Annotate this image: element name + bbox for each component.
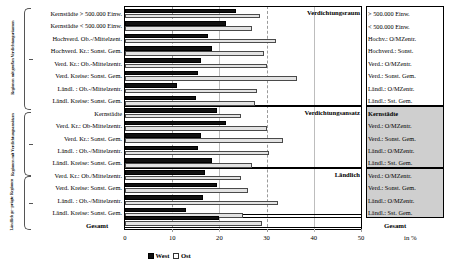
right-category-labels: > 500.000 Einw.< 500.000 Einw.Hochv.: O/… [366, 6, 446, 232]
right-label-1: < 500.000 Einw. [368, 20, 442, 32]
bar-west-2 [125, 34, 208, 39]
legend-label-ost: Ost [181, 252, 191, 259]
right-label-0: > 500.000 Einw. [368, 8, 442, 20]
left-label-16: Ländl. Kreise: Sonst. Gem. [32, 207, 124, 219]
bar-west-11 [125, 146, 198, 151]
axis-tick-0: 0 [117, 234, 133, 241]
bar-west-1 [125, 21, 226, 26]
total-label-right: Gesamt [384, 222, 406, 229]
left-label-12: Ländl. Kreise: Sonst. Gem. [32, 157, 124, 169]
right-label-14: Verd.: Sonst. Gem. [368, 182, 442, 194]
left-label-5: Verd. Kreise: Sonst. Gem. [32, 70, 124, 82]
left-label-4: Verd. Kr.: Ob.-Mittelzentr. [32, 58, 124, 70]
right-label-8: Kernstädte [368, 108, 442, 120]
bar-west-3 [125, 46, 212, 51]
right-label-5: Verd.: Sonst. Gem. [368, 70, 442, 82]
bar-ost-5 [125, 76, 297, 81]
left-label-9: Verd. Kr.: Ob-Mittelzentr. [32, 120, 124, 132]
left-label-7: Ländl. Kreise: Sonst. Gem. [32, 95, 124, 107]
right-label-11: Ländl.: O/MZentr. [368, 145, 442, 157]
axis-tick-50: 50 [353, 234, 369, 241]
left-label-2: Hochverd. Ob.-/Mittelzent. [32, 33, 124, 45]
right-label-9: Verd.: O/MZentr. [368, 120, 442, 132]
legend-swatch-west-icon [148, 253, 154, 259]
right-label-13: Verd.: O/MZentr. [368, 170, 442, 182]
plot-caption-2: Ländlich [335, 171, 360, 178]
axis-tick-30: 30 [259, 234, 275, 241]
bar-ost-total [125, 221, 262, 226]
left-label-0: Kernstädte > 500.000 Einw. [32, 8, 124, 20]
bar-west-15 [125, 195, 203, 200]
left-label-14: Verd. Kreise: Sonst. Gem. [32, 182, 124, 194]
bar-ost-2 [125, 39, 276, 44]
left-label-1: Kernstädte < 500.000 Einw. [32, 20, 124, 32]
legend-item-west: West [148, 252, 169, 259]
left-label-11: Ländl. : Ob.-/Mittelzentr. [32, 145, 124, 157]
bar-ost-14 [125, 188, 248, 193]
left-label-10: Verd. Kr.: Sonst. Gem. [32, 133, 124, 145]
bracket-2 [24, 112, 31, 176]
axis-tick-40: 40 [306, 234, 322, 241]
bar-west-6 [125, 83, 177, 88]
bar-chart: Regionen mit großen Verdichtungsräumen R… [0, 0, 452, 274]
right-label-4: Verd.: O/MZentr. [368, 58, 442, 70]
bracket-label-laendlich: Ländlich ge- prägte Regionen [0, 178, 24, 232]
bracket-label-verdichtungsansaetze: Regionen mit Verdichtungsansätzen [0, 112, 24, 178]
bar-west-12 [125, 158, 212, 163]
bar-west-total [125, 216, 219, 221]
bar-ost-8 [125, 114, 241, 119]
bar-ost-11 [125, 151, 269, 156]
bar-ost-13 [125, 176, 241, 181]
right-label-15: Ländl.: O/MZentr. [368, 195, 442, 207]
axis-tick-10: 10 [164, 234, 180, 241]
legend-label-west: West [156, 252, 170, 259]
bar-ost-12 [125, 163, 252, 168]
bar-west-7 [125, 96, 196, 101]
bar-ost-7 [125, 101, 255, 106]
bar-ost-1 [125, 26, 252, 31]
left-label-13: Verd. Kr.: Ob./Mittelzentr. [32, 170, 124, 182]
bar-ost-3 [125, 51, 264, 56]
plot-caption-0: Verdichtungsraum [307, 9, 360, 16]
bracket-label-column: Regionen mit großen Verdichtungsräumen R… [0, 6, 24, 232]
left-label-3: Hochverd. Kr.: Sonst. Gem. [32, 45, 124, 57]
bar-west-14 [125, 183, 217, 188]
right-label-7: Ländl.: Sst. Gem. [368, 95, 442, 107]
right-label-6: Ländl.: O/MZentr. [368, 83, 442, 95]
x-axis: 01020304050 [124, 232, 369, 246]
bar-ost-4 [125, 64, 267, 69]
bar-west-9 [125, 121, 226, 126]
legend-swatch-ost-icon [173, 253, 179, 259]
right-label-2: Hochv.: O/MZentr. [368, 33, 442, 45]
right-label-16: Ländl.: Sst. Gem. [368, 207, 442, 219]
bar-west-16 [125, 208, 186, 213]
bracket-label-verdichtungsraeume: Regionen mit großen Verdichtungsräumen [0, 6, 24, 110]
bracket-3 [24, 176, 31, 230]
bar-ost-0 [125, 14, 260, 19]
total-label-left: Gesamt [86, 222, 108, 229]
left-category-labels: Kernstädte > 500.000 Einw.Kernstädte < 5… [32, 6, 124, 232]
legend: West Ost [148, 252, 191, 259]
right-label-10: Verd.: Sonst. Gem. [368, 133, 442, 145]
left-label-6: Ländl. : Ob.-/Mittelzentr. [32, 83, 124, 95]
left-label-8: Kernstädte [32, 108, 124, 120]
bar-ost-6 [125, 89, 257, 94]
axis-unit-label: in % [404, 234, 417, 241]
bracket-1 [24, 8, 31, 110]
plot-area: VerdichtungsraumVerdichtungsansatzLändli… [124, 6, 364, 232]
axis-tick-20: 20 [211, 234, 227, 241]
plot-caption-1: Verdichtungsansatz [305, 109, 360, 116]
bar-ost-10 [125, 138, 283, 143]
bar-ost-15 [125, 201, 278, 206]
bar-west-13 [125, 170, 205, 175]
bar-west-0 [125, 9, 236, 14]
bar-west-10 [125, 133, 201, 138]
bar-west-4 [125, 58, 201, 63]
legend-item-ost: Ost [173, 252, 190, 259]
bar-ost-9 [125, 126, 267, 131]
bar-west-8 [125, 108, 217, 113]
left-label-15: Ländl. : Ob.-/Mittelzentr. [32, 195, 124, 207]
right-label-12: Ländl.: Sst. Gem. [368, 157, 442, 169]
bar-west-5 [125, 71, 198, 76]
right-label-3: Hochverd.: Sonst. [368, 45, 442, 57]
